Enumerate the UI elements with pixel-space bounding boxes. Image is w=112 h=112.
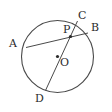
- center-point-marker: [56, 55, 59, 58]
- chord-ab-line: [26, 33, 88, 48]
- point-label-a: A: [9, 38, 17, 49]
- point-label-c: C: [78, 10, 86, 21]
- point-label-b: B: [91, 22, 99, 33]
- point-label-o: O: [60, 57, 69, 68]
- geometry-figure: A B C D O P: [0, 0, 112, 112]
- geometry-canvas: [0, 0, 112, 112]
- point-label-p: P: [63, 24, 70, 35]
- point-label-d: D: [35, 93, 44, 104]
